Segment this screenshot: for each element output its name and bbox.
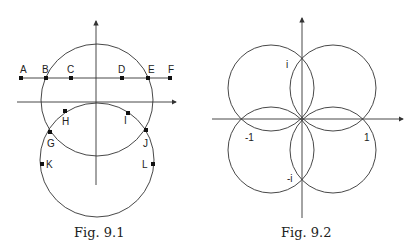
point-a [19,76,23,80]
point-e [146,76,150,80]
upper-circle [41,44,153,156]
circle-upper-left [228,45,314,131]
label-one: 1 [364,132,370,143]
caption-fig-9-2: Fig. 9.2 [281,225,331,240]
point-g [48,130,52,134]
label-neg-one: -1 [245,132,254,143]
circle-upper-right [290,45,376,131]
point-h [63,109,67,113]
label-b: B [42,64,49,75]
label-i: i [286,59,288,70]
lower-circle [40,103,154,217]
point-j [144,128,148,132]
label-i: I [124,115,127,126]
label-k: K [46,159,53,170]
point-d [120,76,124,80]
label-g: G [47,138,55,149]
point-l [151,162,155,166]
label-e: E [148,64,155,75]
labels-9-2: i -1 1 -i [245,59,370,184]
figure-9-2 [212,18,403,218]
point-b [44,76,48,80]
label-c: C [67,64,74,75]
label-neg-i: -i [287,173,293,184]
figure-9-1 [17,21,176,217]
label-a: A [20,64,27,75]
label-h: H [62,116,69,127]
caption-fig-9-1: Fig. 9.1 [74,225,124,240]
label-j: J [143,138,148,149]
circle-lower-right [290,107,376,193]
point-k [40,162,44,166]
label-l: L [142,159,148,170]
labels-9-1: A B C D E F H I G J K L [20,64,174,170]
label-d: D [118,64,125,75]
point-c [69,76,73,80]
label-f: F [168,64,174,75]
point-f [168,76,172,80]
figures-canvas: A B C D E F H I G J K L Fig. 9.1 i -1 1 … [0,0,417,252]
circle-lower-left [228,107,314,193]
